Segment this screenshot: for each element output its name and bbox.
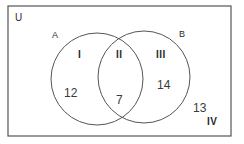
region-iv-value: 13 bbox=[193, 102, 206, 114]
universe-label: U bbox=[15, 13, 22, 23]
set-b-label: B bbox=[179, 29, 185, 39]
region-ii-label: II bbox=[116, 50, 123, 60]
set-a-circle bbox=[51, 33, 143, 125]
region-i-label: I bbox=[78, 50, 81, 60]
region-iv-label: IV bbox=[207, 117, 217, 127]
set-a-label: A bbox=[52, 30, 58, 40]
set-b-circle bbox=[98, 31, 190, 123]
region-i-value: 12 bbox=[64, 87, 77, 99]
region-iii-value: 14 bbox=[157, 79, 170, 91]
region-ii-value: 7 bbox=[116, 94, 123, 106]
region-iii-label: III bbox=[156, 50, 166, 60]
